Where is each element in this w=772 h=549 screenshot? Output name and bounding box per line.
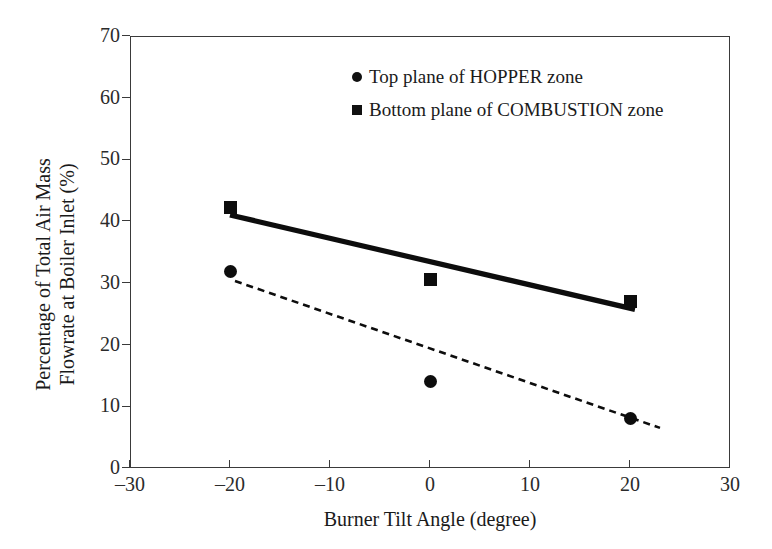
x-tick-mark [329, 460, 330, 468]
y-tick-mark [122, 159, 130, 160]
legend-item-combustion: Bottom plane of COMBUSTION zone [352, 99, 663, 121]
y-axis-title-line-2: Flowrate at Boiler Inlet (%) [55, 163, 79, 385]
y-tick-mark [122, 220, 130, 221]
y-tick-mark [122, 35, 130, 36]
x-tick-label: –30 [90, 474, 170, 494]
x-tick-label: 30 [690, 474, 770, 494]
legend-item-hopper: Top plane of HOPPER zone [352, 66, 663, 88]
x-tick-mark [129, 460, 130, 468]
x-tick-mark [229, 460, 230, 468]
x-tick-label: 20 [590, 474, 670, 494]
x-tick-label: 0 [390, 474, 470, 494]
x-tick-mark [529, 460, 530, 468]
legend-label-combustion: Bottom plane of COMBUSTION zone [369, 99, 663, 121]
y-tick-mark [122, 344, 130, 345]
data-point-combustion [424, 273, 437, 286]
y-tick-mark [122, 282, 130, 283]
x-tick-mark [429, 460, 430, 468]
x-tick-label: –20 [190, 474, 270, 494]
circle-marker-icon [352, 72, 362, 82]
x-tick-label: –10 [290, 474, 370, 494]
x-tick-mark [629, 460, 630, 468]
data-point-hopper [624, 412, 637, 425]
x-tick-mark [729, 460, 730, 468]
y-tick-mark [122, 406, 130, 407]
legend-label-hopper: Top plane of HOPPER zone [369, 66, 583, 88]
data-point-combustion [224, 201, 237, 214]
y-axis-title-line-1: Percentage of Total Air Mass [31, 158, 55, 391]
data-point-hopper [424, 375, 437, 388]
chart-figure: 010203040506070 –30–20–100102030 Top pla… [0, 0, 772, 549]
x-tick-label: 10 [490, 474, 570, 494]
data-point-combustion [624, 295, 637, 308]
square-marker-icon [352, 105, 362, 115]
y-tick-mark [122, 97, 130, 98]
chart-legend: Top plane of HOPPER zone Bottom plane of… [352, 66, 663, 121]
x-axis-title: Burner Tilt Angle (degree) [130, 508, 730, 531]
y-axis-title: Percentage of Total Air Mass Flowrate at… [24, 0, 86, 549]
data-point-hopper [224, 265, 237, 278]
